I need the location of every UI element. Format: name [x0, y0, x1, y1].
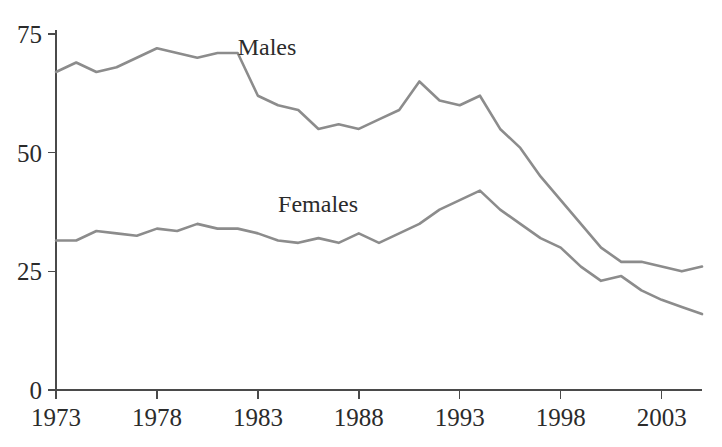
- chart-page: 0255075 1973197819831988199319982003 Mal…: [0, 0, 722, 447]
- y-tick-label: 0: [30, 377, 43, 404]
- x-tick-label: 1983: [233, 404, 283, 431]
- line-chart: 0255075 1973197819831988199319982003 Mal…: [0, 0, 722, 447]
- y-axis-ticks: [48, 34, 56, 390]
- series-line-males: [56, 48, 702, 271]
- x-axis-ticks: [56, 390, 662, 399]
- series-line-females: [56, 191, 702, 314]
- y-tick-label: 75: [17, 21, 42, 48]
- x-tick-label: 1988: [334, 404, 384, 431]
- y-axis-tick-labels: 0255075: [17, 21, 42, 404]
- x-tick-label: 1998: [536, 404, 586, 431]
- x-axis-tick-labels: 1973197819831988199319982003: [31, 404, 687, 431]
- series-label-males: Males: [238, 34, 297, 60]
- y-tick-label: 50: [17, 140, 42, 167]
- series-lines: [56, 48, 702, 314]
- x-tick-label: 1973: [31, 404, 81, 431]
- series-label-females: Females: [278, 191, 358, 217]
- x-tick-label: 1993: [435, 404, 485, 431]
- y-tick-label: 25: [17, 258, 42, 285]
- x-tick-label: 2003: [637, 404, 687, 431]
- x-tick-label: 1978: [132, 404, 182, 431]
